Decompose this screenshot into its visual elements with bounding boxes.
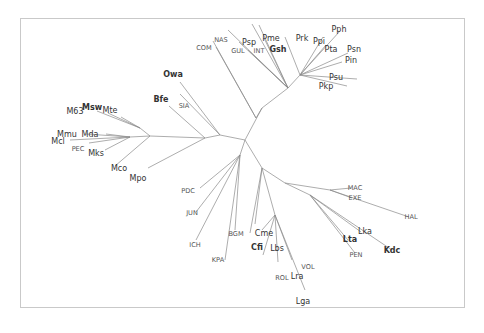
taxon-label-bfe: Bfe xyxy=(153,95,169,104)
taxon-label-vol: VOL xyxy=(301,263,315,271)
taxon-label-jun: JUN xyxy=(185,209,198,217)
tree-branch xyxy=(248,50,288,88)
taxon-label-owa: Owa xyxy=(163,70,183,79)
taxon-label-hal: HAL xyxy=(404,213,417,221)
tree-branch xyxy=(130,136,150,137)
tree-branch xyxy=(300,53,348,75)
taxon-label-pta: Pta xyxy=(325,45,338,54)
tree-branch xyxy=(121,117,140,128)
taxon-label-pme: Pme xyxy=(262,34,280,43)
taxon-label-lka: Lka xyxy=(358,227,372,236)
tree-branch xyxy=(256,108,262,118)
taxon-label-mpo: Mpo xyxy=(130,174,147,183)
taxon-label-pdc: PDC xyxy=(181,187,195,195)
taxon-label-psu: Psu xyxy=(329,73,343,82)
taxon-label-gsh: Gsh xyxy=(269,45,286,54)
taxon-label-lta: Lta xyxy=(343,235,357,244)
tree-branch xyxy=(169,106,205,138)
taxon-label-psp: Psp xyxy=(242,38,256,47)
taxon-label-pkp: Pkp xyxy=(319,82,334,91)
taxon-label-kdc: Kdc xyxy=(384,246,401,255)
taxon-label-com: COM xyxy=(196,44,212,52)
tree-branch xyxy=(330,190,409,217)
tree-branch xyxy=(300,45,326,75)
taxon-label-ich: ICH xyxy=(189,241,201,249)
taxon-label-kpa: KPA xyxy=(212,256,225,264)
taxon-label-sia: SIA xyxy=(179,102,190,110)
tree-branch xyxy=(240,140,245,155)
taxon-label-psn: Psn xyxy=(347,45,361,54)
taxon-label-exe: EXE xyxy=(349,194,362,202)
tree-branch xyxy=(140,128,150,136)
phylogenetic-tree: NASCOMPspGULINTPmeGshPrkPpiPphPtaPsnPinP… xyxy=(0,0,484,333)
taxon-label-lbs: Lbs xyxy=(270,244,284,253)
taxon-label-mco: Mco xyxy=(111,164,127,173)
tree-branch xyxy=(288,75,300,88)
tree-branch xyxy=(225,155,240,260)
taxon-label-lra: Lra xyxy=(291,272,304,281)
taxon-label-nas: NAS xyxy=(214,36,228,44)
tree-branch xyxy=(196,155,240,240)
tree-branch xyxy=(245,140,262,168)
taxon-label-bgm: BGM xyxy=(228,230,244,238)
taxon-label-pin: Pin xyxy=(345,56,357,65)
taxon-label-mda: Mda xyxy=(82,130,99,139)
taxon-label-mcl: Mcl xyxy=(51,137,65,146)
taxon-label-pen: PEN xyxy=(349,251,362,259)
taxon-label-int: INT xyxy=(254,47,266,55)
tree-branch xyxy=(108,113,140,128)
taxon-label-cfi: Cfi xyxy=(251,243,263,252)
taxon-label-prk: Prk xyxy=(296,34,309,43)
taxon-label-pec: PEC xyxy=(72,145,85,153)
taxon-label-mte: Mte xyxy=(103,106,118,115)
tree-branch xyxy=(235,155,240,230)
tree-branch xyxy=(250,168,262,233)
taxon-label-rol: ROL xyxy=(275,274,289,282)
tree-branch xyxy=(180,94,220,135)
tree-branch xyxy=(262,88,288,108)
tree-branch xyxy=(200,155,240,188)
taxon-label-lga: Lga xyxy=(296,297,311,306)
taxon-label-cme: Cme xyxy=(255,229,273,238)
taxon-label-mac: MAC xyxy=(348,184,363,192)
tree-branch xyxy=(255,168,262,224)
tree-branch xyxy=(205,135,220,138)
tree-branch xyxy=(150,136,205,138)
tree-branch xyxy=(220,135,245,140)
taxon-label-pph: Pph xyxy=(332,25,347,34)
taxon-label-gul: GUL xyxy=(231,47,245,55)
taxon-label-mks: Mks xyxy=(88,149,104,158)
tree-branch xyxy=(310,195,355,253)
taxon-label-msw: Msw xyxy=(82,103,103,112)
tree-branch xyxy=(115,136,150,166)
taxon-label-ppi: Ppi xyxy=(313,37,325,46)
tree-branch xyxy=(148,138,205,168)
tree-branch xyxy=(310,195,348,240)
